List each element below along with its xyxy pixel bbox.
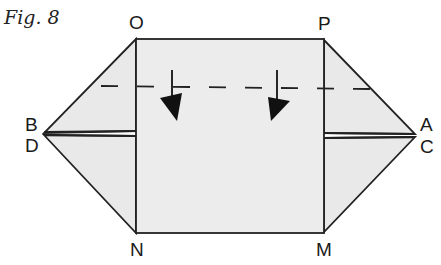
vertex-label-p: P: [318, 13, 331, 34]
origami-fold-diagram: O P B D A C N M: [0, 0, 441, 265]
left-edge-line-upper: [44, 131, 136, 132]
vertex-label-b: B: [25, 114, 38, 135]
left-lower-flap: [44, 135, 136, 233]
left-edge-line-lower: [44, 135, 136, 136]
vertex-label-o: O: [129, 12, 144, 33]
vertex-label-c: C: [420, 136, 434, 157]
right-edge-line-upper: [324, 133, 415, 134]
left-upper-flap: [44, 39, 136, 133]
right-upper-flap: [324, 40, 415, 134]
vertex-label-m: M: [316, 239, 332, 260]
vertex-label-n: N: [130, 239, 144, 260]
right-edge-line-lower: [324, 137, 415, 138]
vertex-label-a: A: [420, 114, 433, 135]
right-lower-flap: [324, 137, 415, 232]
center-square: [136, 39, 324, 233]
vertex-label-d: D: [25, 135, 39, 156]
